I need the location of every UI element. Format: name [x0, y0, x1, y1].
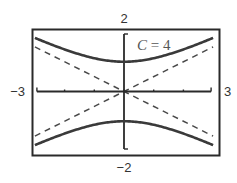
annotation-equals: = [147, 37, 163, 53]
ymax-label: 2 [120, 11, 127, 26]
hyperbola-plot: 2 −2 −3 3 C = 4 [0, 0, 237, 183]
ymin-label: −2 [117, 160, 132, 175]
xmin-label: −3 [10, 84, 25, 99]
constant-annotation: C = 4 [137, 37, 171, 53]
xmax-label: 3 [224, 84, 231, 99]
annotation-value: 4 [163, 37, 171, 53]
